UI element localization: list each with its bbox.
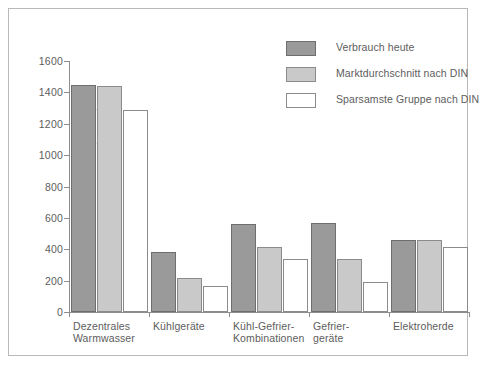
y-tick-label: 400 (9, 243, 63, 255)
legend-swatch-verbrauch-heute (286, 41, 316, 56)
x-tick-mark (229, 312, 230, 317)
x-tick-mark (469, 312, 470, 317)
legend-swatch-marktdurchschnitt (286, 67, 316, 82)
legend-label: Marktdurchschnitt nach DIN (336, 67, 468, 79)
bar (417, 240, 442, 312)
figure-frame: Jahresstromverbrauch (kWh/a) 02004006008… (8, 8, 468, 356)
y-tick-mark (64, 124, 69, 125)
x-tick-mark (69, 312, 70, 317)
bar (391, 240, 416, 312)
bar (311, 223, 336, 312)
legend-label: Verbrauch heute (336, 41, 415, 53)
bar (337, 259, 362, 312)
y-tick-mark (64, 155, 69, 156)
y-tick-label: 200 (9, 275, 63, 287)
y-tick-label: 1600 (9, 55, 63, 67)
y-tick-label: 0 (9, 306, 63, 318)
y-tick-mark (64, 92, 69, 93)
bar (151, 252, 176, 312)
y-tick-label: 1200 (9, 118, 63, 130)
y-tick-mark (64, 249, 69, 250)
bar (443, 247, 468, 312)
x-tick-mark (389, 312, 390, 317)
legend-label: Sparsamste Gruppe nach DIN (336, 93, 479, 105)
bar (97, 86, 122, 312)
y-tick-mark (64, 281, 69, 282)
x-tick-mark (149, 312, 150, 317)
y-tick-label: 600 (9, 212, 63, 224)
bar (257, 247, 282, 312)
x-axis-category-label: Elektroherde (393, 321, 483, 333)
legend-swatch-sparsamste-gruppe (286, 93, 316, 108)
bar (123, 110, 148, 312)
x-tick-mark (309, 312, 310, 317)
bar (363, 282, 388, 312)
y-tick-label: 1000 (9, 149, 63, 161)
bar (283, 259, 308, 312)
y-tick-label: 1400 (9, 86, 63, 98)
x-axis-line (69, 312, 469, 313)
bar (231, 224, 256, 312)
figure-caption (10, 364, 466, 372)
y-tick-mark (64, 61, 69, 62)
y-tick-mark (64, 187, 69, 188)
bar (177, 278, 202, 312)
bar (203, 286, 228, 312)
bar (71, 85, 96, 312)
y-tick-mark (64, 218, 69, 219)
y-tick-label: 800 (9, 181, 63, 193)
